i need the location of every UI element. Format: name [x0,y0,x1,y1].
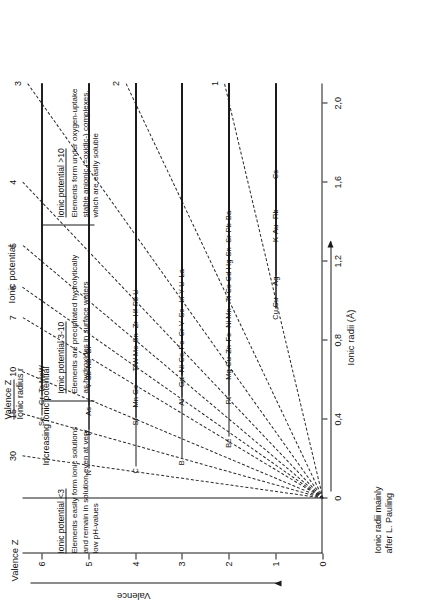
valence-tick-label: 6 [37,561,46,579]
element-label: Pt [225,395,233,404]
element-label: Co [178,351,186,362]
element-label: Ti [225,294,233,301]
element-label: Bi [84,345,92,353]
element-label: Pb [131,295,139,306]
element-label: Cr [178,326,186,335]
element-label: Ag [271,275,279,286]
ionic-potential-isoline-label: 5 [8,242,17,247]
element-label: Sn [225,245,233,256]
ionic-potential-isoline [22,413,322,498]
element-tie-line [181,83,182,290]
element-tie-line [88,83,89,352]
valence-tick-label: 2 [224,561,233,579]
radii-tick [322,181,327,182]
valence-tick-label: 1 [271,561,280,579]
radii-tick [322,260,327,261]
element-label: Fe [225,331,233,341]
valence-tick [181,553,182,559]
element-tie-line [41,83,42,363]
element-label: La [178,267,186,277]
ionic-potential-title: Ionic potential [5,244,16,303]
radii-tick-label: 0,8 [333,327,342,353]
valence-tick [135,553,136,559]
valence-axis-label: Valence [116,590,150,601]
valence-tick [41,553,42,559]
ionic-potential-isoline-label: 30 [8,451,17,461]
radii-tick-label: 1,2 [333,248,342,274]
radii-tick-label: 1,6 [333,169,342,195]
ionic-potential-isoline-label: 3 [13,80,22,85]
element-label: Sr [225,233,233,242]
radii-tick [322,339,327,340]
element-label: Te [37,383,45,392]
element-label: P [84,429,92,436]
radii-tick [322,102,327,103]
element-label: K [271,235,279,242]
ionic-potential-isoline-label: 7 [8,315,17,320]
radii-axis-line [321,83,322,553]
element-label: Co [225,282,233,293]
element-label: Mn [225,306,233,318]
element-label: Zn [225,343,233,353]
element-label: Y [178,287,186,294]
element-label: Cu [225,355,233,366]
element-label: Nb [84,357,92,368]
element-label: Cu [271,308,279,319]
valence-tick-label: 5 [84,561,93,579]
ionic-potential-isoline-label: 4 [8,179,17,184]
element-label: Mo [131,344,139,356]
ionic-potential-isoline-label: 1 [210,80,219,85]
element-label: U [178,279,186,286]
element-label: U [131,287,139,294]
valence-tick-label: 0 [318,561,327,579]
element-label: Be [225,437,233,448]
credit-note: Ionic radii mainly after L. Pauling [372,486,394,553]
radii-tick-label: 2,0 [333,90,342,116]
radii-axis-title: Ionic radii (Å) [344,309,355,365]
element-tie-line [275,83,276,168]
radii-tick-label: 0,4 [333,406,342,432]
element-label: As [84,405,92,415]
ionic-potential-isoline-label: 2 [111,80,120,85]
ionic-potential-isoline [22,316,323,497]
ionic-potential-isoline-label: 15 [8,408,17,418]
element-label: Fe [178,339,186,349]
element-label: Si [131,417,139,425]
element-label: Pb [225,221,233,232]
element-label: Zr [131,319,139,328]
element-label: Mg [225,367,233,379]
plot-area: 012345600,40,81,21,62,01234567101530CuCu… [22,83,322,553]
element-label: V [84,381,92,388]
element-label: Sc [178,307,186,317]
element-label: Mn [131,395,139,407]
element-label: V [178,319,186,326]
element-label: Au [271,223,279,234]
element-label: W [37,363,45,372]
element-label: Sn [131,331,139,342]
radii-direction-arrow [330,241,331,491]
element-label: Hf [131,307,139,316]
element-label: Ni [225,319,233,328]
element-label: Ge [131,383,139,395]
element-label: Ni [178,363,186,372]
element-label: Rb [271,207,279,218]
element-label: In [178,294,186,302]
valence-tick [88,553,89,559]
element-tie-line [135,83,136,306]
element-label: Cu [271,296,279,307]
element-label: Cd [225,270,233,281]
element-label: Ga [178,375,186,387]
element-label: Cs [271,168,279,179]
radii-tick-label: 0 [333,485,342,511]
element-label: Sb [84,369,92,380]
zero-radius-line [22,497,322,498]
element-label: Al [178,397,186,405]
ionic-potential-isoline [224,83,323,498]
element-label: Mo [37,371,45,383]
valence-tick-label: 4 [131,561,140,579]
element-label: N [84,468,92,475]
valence-tick-label: 3 [177,561,186,579]
valence-tick [275,553,276,559]
ionic-potential-isoline-label: 10 [8,366,17,376]
valence-direction-arrow [30,582,280,583]
